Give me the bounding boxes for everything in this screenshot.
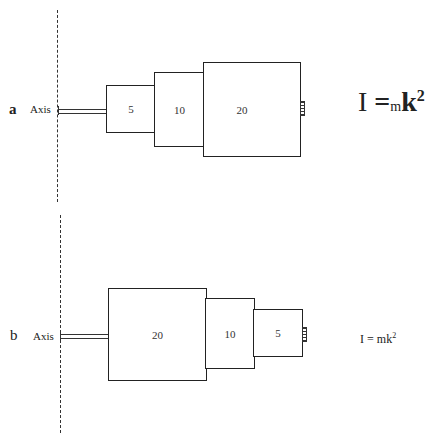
panel-letter-a: a: [9, 101, 17, 118]
shaft-b: [61, 334, 109, 339]
mass-block-a-1: 5: [106, 85, 156, 133]
formula-exp: 2: [392, 331, 396, 340]
formula-b: I = mk2: [360, 331, 396, 347]
axis-label-b: Axis: [33, 330, 54, 342]
mass-block-a-2: 10: [154, 72, 205, 147]
formula-exp: 2: [417, 87, 425, 104]
mass-block-b-2: 10: [205, 298, 255, 369]
formula-lhs: I: [360, 332, 364, 346]
mass-block-a-3: 20: [203, 62, 301, 157]
formula-k: k: [401, 86, 417, 117]
end-connector-a: [300, 101, 305, 116]
formula-m: m: [377, 332, 386, 346]
axis-label-a: Axis: [30, 103, 51, 115]
mass-block-b-1: 20: [108, 288, 207, 381]
end-connector-b: [302, 327, 307, 342]
panel-letter-b: b: [10, 327, 18, 344]
mass-block-b-3: 5: [253, 309, 303, 357]
formula-m: m: [390, 99, 401, 114]
formula-eq: =: [367, 332, 374, 346]
formula-lhs: I: [358, 86, 367, 117]
formula-a: I =mk2: [358, 86, 425, 118]
rotation-axis-b: [60, 215, 61, 433]
formula-eq: =: [374, 86, 390, 117]
shaft-a: [59, 109, 107, 114]
